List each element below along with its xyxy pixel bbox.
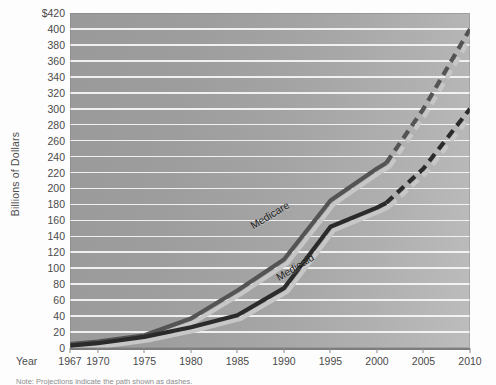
x-axis-tick-mark: [190, 348, 191, 353]
x-axis-tick-label: 2010: [458, 355, 481, 367]
series-shadow-medicaid: [74, 206, 390, 348]
y-axis-tick-label: 100: [47, 262, 65, 274]
y-axis-tick-label: 200: [47, 182, 65, 194]
y-axis-tick-label: 240: [47, 151, 65, 163]
y-axis-tick-label: 80: [53, 278, 65, 290]
y-axis-tick-label: 300: [47, 103, 65, 115]
x-axis-tick-mark: [97, 348, 98, 353]
x-axis-tick-mark: [144, 348, 145, 353]
y-axis-title: Billions of Dollars: [4, 0, 26, 348]
y-axis-tick-label: 20: [53, 326, 65, 338]
y-axis-tick-label: 280: [47, 119, 65, 131]
y-axis-tick-label: 360: [47, 55, 65, 67]
y-axis-tick-label: 220: [47, 167, 65, 179]
x-axis-tick-label: 2005: [412, 355, 435, 367]
y-axis-tick-label: 260: [47, 135, 65, 147]
series-projected-line-medicaid: [386, 109, 470, 203]
y-axis-tick-labels: $420400380360340320300280260240220200180…: [24, 0, 68, 360]
x-axis-tick-label: 1980: [179, 355, 202, 367]
series-lines: [70, 13, 470, 348]
x-axis-tick-mark: [470, 348, 471, 353]
y-axis-title-text: Billions of Dollars: [9, 132, 21, 216]
footnote: Note: Projections indicate the path show…: [16, 377, 456, 385]
y-axis-tick-label: 180: [47, 198, 65, 210]
x-axis-tick-mark: [237, 348, 238, 353]
x-axis-title: Year: [16, 355, 37, 367]
y-axis-tick-label: 140: [47, 230, 65, 242]
x-axis-tick-label: 1975: [133, 355, 156, 367]
x-axis-tick-mark: [376, 348, 377, 353]
y-axis-tick-label: 380: [47, 39, 65, 51]
y-axis-tick-label: 320: [47, 87, 65, 99]
x-axis-tick-label: 2000: [365, 355, 388, 367]
x-axis-tick-label: 1990: [272, 355, 295, 367]
chart-container: Billions of Dollars $4204003803603403203…: [0, 0, 496, 385]
x-axis-tick-label: 1967: [58, 355, 81, 367]
x-axis-tick-mark: [70, 348, 71, 353]
y-axis-tick-label: 120: [47, 246, 65, 258]
y-axis-tick-label: 160: [47, 214, 65, 226]
y-axis-tick-label: 340: [47, 71, 65, 83]
y-axis-tick-label: 60: [53, 294, 65, 306]
x-axis-tick-mark: [330, 348, 331, 353]
x-axis-tick-label: 1970: [86, 355, 109, 367]
y-axis-tick-label: 400: [47, 23, 65, 35]
x-axis-tick-label: 1985: [226, 355, 249, 367]
series-projected-line-medicare: [386, 29, 470, 163]
y-axis-tick-label: $420: [42, 7, 65, 19]
x-axis-tick-mark: [423, 348, 424, 353]
x-axis-tick-label: 1995: [319, 355, 342, 367]
y-axis-tick-label: 40: [53, 310, 65, 322]
x-axis-tick-mark: [283, 348, 284, 353]
x-axis-tick-labels: 1967197019751980198519901995200020052010: [0, 348, 496, 372]
plot-area: Medicare Medicaid: [70, 13, 470, 348]
